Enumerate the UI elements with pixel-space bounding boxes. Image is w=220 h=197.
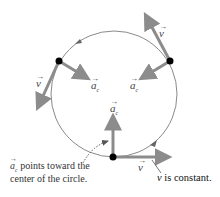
velocity-vector-left xyxy=(38,61,59,107)
particle-dot-left xyxy=(56,58,63,65)
label-v-left: →v xyxy=(36,78,41,89)
direction-arrowhead-icon xyxy=(75,39,82,44)
label-v-top-right: →v xyxy=(159,28,164,39)
particle-dot-bottom xyxy=(110,154,117,161)
ac-direction-note: →ac points toward the center of the circ… xyxy=(10,160,90,184)
acceleration-vector-top-right xyxy=(142,61,170,78)
direction-arrowhead-icon xyxy=(150,140,157,147)
label-ac-top-right: →ac xyxy=(130,80,138,93)
label-v-bottom: →v xyxy=(138,162,143,173)
acceleration-vector-left xyxy=(59,61,87,78)
particle-dot-top-right xyxy=(167,58,174,65)
label-ac-left: →ac xyxy=(91,80,99,93)
label-ac-bottom: →ac xyxy=(110,103,118,116)
v-constant-note: v is constant. xyxy=(157,172,212,183)
